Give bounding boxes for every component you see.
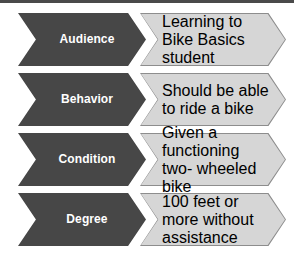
chevron-row: Audience Learning to Bike Basics student <box>0 13 294 66</box>
chevron-label-text: Degree <box>66 213 107 226</box>
chevron-label-text: Condition <box>59 153 116 166</box>
chevron-label-shape[interactable]: Behavior <box>18 73 146 126</box>
chevron-label-shape[interactable]: Degree <box>18 193 146 246</box>
chevron-diagram: Audience Learning to Bike Basics student… <box>0 0 294 253</box>
page-top-rule <box>0 0 294 3</box>
chevron-label-text: Behavior <box>61 93 113 106</box>
chevron-row: Condition Given a functioning two- wheel… <box>0 133 294 186</box>
chevron-value-text: Learning to Bike Basics student <box>162 13 270 67</box>
chevron-label-text: Audience <box>60 33 115 46</box>
chevron-row: Behavior Should be able to ride a bike <box>0 73 294 126</box>
chevron-label-shape[interactable]: Audience <box>18 13 146 66</box>
chevron-row: Degree 100 feet or more without assistan… <box>0 193 294 246</box>
chevron-value-label: Given a functioning two- wheeled bike <box>140 133 286 186</box>
chevron-row-list: Audience Learning to Bike Basics student… <box>0 13 294 246</box>
chevron-label-shape[interactable]: Condition <box>18 133 146 186</box>
chevron-value-text: Given a functioning two- wheeled bike <box>162 124 270 196</box>
chevron-value-text: 100 feet or more without assistance <box>162 193 270 247</box>
chevron-value-label: Should be able to ride a bike <box>140 73 286 126</box>
chevron-value-text: Should be able to ride a bike <box>162 82 270 118</box>
chevron-value-label: 100 feet or more without assistance <box>140 193 286 246</box>
chevron-value-label: Learning to Bike Basics student <box>140 13 286 66</box>
